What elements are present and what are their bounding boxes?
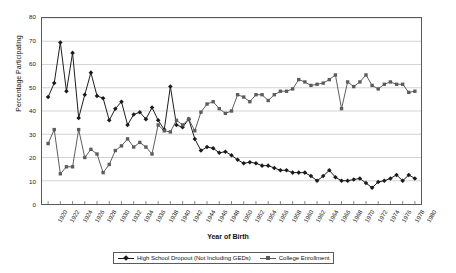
x-axis-title: Year of Birth	[0, 233, 456, 240]
y-tick-label: 80	[18, 14, 36, 20]
y-tick-label: 60	[18, 61, 36, 67]
data-point	[168, 84, 173, 89]
data-point	[95, 152, 98, 155]
chart-container: Percentage Participating 010203040506070…	[0, 0, 456, 273]
x-tick-label: 1966	[339, 209, 351, 224]
data-point	[377, 87, 380, 90]
data-point	[242, 95, 245, 98]
data-point	[101, 96, 106, 101]
data-point	[199, 148, 204, 153]
data-point	[114, 149, 117, 152]
y-tick-label: 20	[18, 155, 36, 161]
data-point	[334, 73, 337, 76]
data-point	[58, 40, 63, 45]
x-tick-label: 1922	[69, 209, 81, 224]
x-tick-label: 1944	[204, 209, 216, 224]
data-point	[272, 166, 277, 171]
data-point	[296, 170, 301, 175]
data-point	[248, 100, 251, 103]
data-point	[107, 118, 112, 123]
x-tick-label: 1956	[278, 209, 290, 224]
data-point	[284, 168, 289, 173]
y-tick-label: 70	[18, 38, 36, 44]
data-point	[53, 128, 56, 131]
data-point	[388, 176, 393, 181]
data-point	[303, 170, 308, 175]
data-point	[273, 93, 276, 96]
x-tick-label: 1968	[352, 209, 364, 224]
data-point	[211, 100, 214, 103]
series-line-0	[48, 42, 415, 187]
x-tick-label: 1946	[217, 209, 229, 224]
data-point	[223, 149, 228, 154]
x-tick-label: 1940	[180, 209, 192, 224]
x-tick-label: 1950	[241, 209, 253, 224]
x-tick-label: 1962	[315, 209, 327, 224]
data-point	[64, 89, 69, 94]
data-point	[358, 80, 361, 83]
data-point	[144, 145, 147, 148]
x-tick-label: 1976	[401, 209, 413, 224]
x-tick-label: 1970	[364, 209, 376, 224]
x-tick-label: 1964	[327, 209, 339, 224]
data-point	[278, 168, 283, 173]
data-point	[150, 105, 155, 110]
legend-item-college[interactable]: College Enrollment	[260, 255, 330, 261]
data-point	[163, 129, 166, 132]
x-tick-label: 1932	[131, 209, 143, 224]
data-point	[407, 91, 410, 94]
data-point	[279, 90, 282, 93]
data-point	[364, 73, 367, 76]
data-point	[71, 165, 74, 168]
y-tick-label: 40	[18, 108, 36, 114]
data-point	[309, 84, 312, 87]
data-point	[131, 112, 136, 117]
x-tick-label: 1926	[94, 209, 106, 224]
data-point	[83, 92, 88, 97]
legend-label-college: College Enrollment	[279, 255, 330, 261]
data-point	[46, 142, 49, 145]
legend-marker-square-icon	[260, 255, 276, 261]
data-point	[89, 70, 94, 75]
data-point	[352, 85, 355, 88]
data-point	[322, 81, 325, 84]
x-tick-label: 1980	[426, 209, 438, 224]
legend-marker-diamond-icon	[118, 255, 134, 261]
data-point	[389, 80, 392, 83]
data-point	[193, 137, 198, 142]
data-point	[120, 144, 123, 147]
x-tick-label: 1978	[413, 209, 425, 224]
data-point	[236, 93, 239, 96]
data-point	[59, 172, 62, 175]
data-point	[266, 99, 269, 102]
data-point	[199, 110, 202, 113]
data-point	[328, 78, 331, 81]
x-tick-label: 1938	[167, 209, 179, 224]
data-point	[181, 123, 184, 126]
legend-item-dropout[interactable]: High School Dropout (Not Including GEDs)	[118, 255, 251, 261]
data-point	[297, 78, 300, 81]
x-tick-label: 1954	[266, 209, 278, 224]
plot-area	[41, 17, 422, 205]
data-point	[77, 128, 80, 131]
data-point	[382, 178, 387, 183]
data-point	[230, 109, 233, 112]
chart-legend: High School Dropout (Not Including GEDs)…	[113, 252, 334, 264]
x-tick-label: 1942	[192, 209, 204, 224]
legend-label-dropout: High School Dropout (Not Including GEDs)	[137, 255, 251, 261]
data-point	[205, 145, 210, 150]
data-point	[260, 163, 265, 168]
data-point	[351, 177, 356, 182]
data-point	[218, 107, 221, 110]
data-point	[413, 90, 416, 93]
data-point	[52, 81, 57, 86]
data-point	[89, 148, 92, 151]
data-point	[395, 83, 398, 86]
data-point	[101, 171, 104, 174]
data-point	[95, 94, 100, 99]
data-point	[340, 107, 343, 110]
data-point	[291, 87, 294, 90]
x-tick-label: 1960	[303, 209, 315, 224]
data-point	[401, 83, 404, 86]
data-point	[125, 123, 130, 128]
